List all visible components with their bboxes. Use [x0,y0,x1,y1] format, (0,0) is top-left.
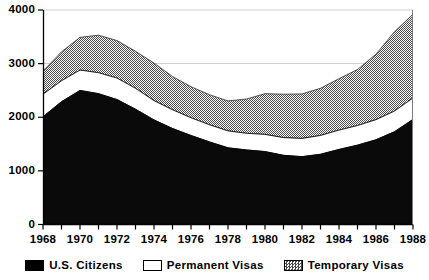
y-tick-label: 3000 [0,57,35,69]
y-tick-label: 0 [0,218,35,230]
legend-label-permanent-visas: Permanent Visas [167,259,264,271]
legend-item-permanent-visas: Permanent Visas [143,259,264,271]
y-tick-label: 4000 [0,3,35,15]
x-tick-label: 1980 [245,233,285,245]
legend-swatch-permanent-visas [143,260,162,271]
legend-item-us-citizens: U.S. Citizens [25,259,123,271]
legend-label-temporary-visas: Temporary Visas [308,259,404,271]
stacked-area-chart: 01000200030004000 1968197019721974197619… [0,0,429,280]
legend-swatch-temporary-visas [284,260,303,271]
x-tick-label: 1984 [319,233,359,245]
chart-legend: U.S. Citizens Permanent Visas Temporary … [0,254,429,276]
x-tick-label: 1976 [171,233,211,245]
legend-label-us-citizens: U.S. Citizens [49,259,123,271]
legend-item-temporary-visas: Temporary Visas [284,259,404,271]
legend-swatch-us-citizens [25,260,44,271]
y-tick-label: 2000 [0,110,35,122]
x-tick-label: 1968 [23,233,63,245]
series-areas [43,14,413,224]
x-axis-ticks [43,225,413,230]
x-tick-label: 1970 [60,233,100,245]
y-axis-ticks [38,10,43,225]
y-tick-label: 1000 [0,164,35,176]
x-tick-label: 1982 [282,233,322,245]
x-tick-label: 1988 [393,233,429,245]
x-tick-label: 1972 [97,233,137,245]
x-tick-label: 1974 [134,233,174,245]
x-tick-label: 1978 [208,233,248,245]
x-tick-label: 1986 [356,233,396,245]
